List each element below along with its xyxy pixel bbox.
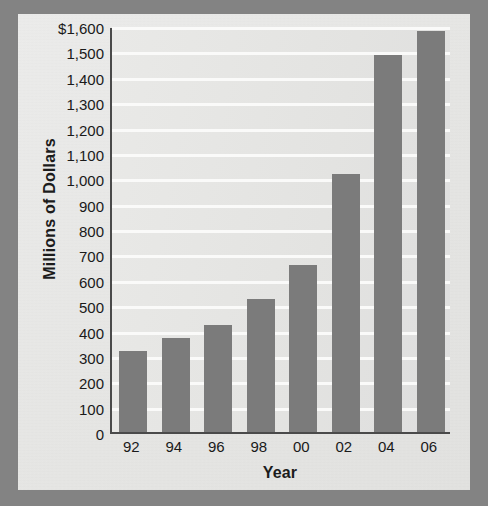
x-axis-tick-label: 98 (250, 438, 267, 455)
y-axis-tick-label: 1,400 (32, 70, 104, 87)
y-axis-tick-labels: 01002003004005006007008009001,0001,1001,… (32, 14, 104, 490)
bar (332, 174, 360, 432)
bar (374, 55, 402, 432)
y-axis-tick-label: 400 (32, 324, 104, 341)
y-axis-tick-label: 1,500 (32, 45, 104, 62)
x-axis-tick-label: 00 (293, 438, 310, 455)
y-axis-tick-label: 500 (32, 299, 104, 316)
x-axis-tick-label: 06 (420, 438, 437, 455)
y-axis-tick-label: 900 (32, 197, 104, 214)
y-axis-tick-label: 0 (32, 426, 104, 443)
plot-area (110, 28, 450, 434)
bar (417, 31, 445, 432)
y-axis-tick-label: 100 (32, 400, 104, 417)
y-axis-tick-label: $1,600 (32, 20, 104, 37)
bar (162, 338, 190, 432)
bar (289, 265, 317, 432)
x-axis-tick-label: 04 (378, 438, 395, 455)
x-axis-tick-labels: 9294969800020406 (110, 438, 450, 462)
chart-panel: Millions of Dollars 01002003004005006007… (18, 14, 470, 490)
y-axis-tick-label: 600 (32, 273, 104, 290)
bar (204, 325, 232, 432)
x-axis-tick-label: 96 (208, 438, 225, 455)
y-axis-tick-label: 700 (32, 248, 104, 265)
x-axis-title: Year (110, 464, 450, 482)
figure-frame: Millions of Dollars 01002003004005006007… (0, 0, 488, 506)
y-axis-tick-label: 1,000 (32, 172, 104, 189)
y-axis-tick-label: 1,100 (32, 146, 104, 163)
x-axis-tick-label: 02 (335, 438, 352, 455)
y-axis-tick-label: 300 (32, 349, 104, 366)
bar (119, 351, 147, 432)
x-axis-tick-label: 94 (165, 438, 182, 455)
y-axis-tick-label: 1,300 (32, 96, 104, 113)
y-axis-tick-label: 1,200 (32, 121, 104, 138)
y-axis-tick-label: 200 (32, 375, 104, 392)
y-axis-tick-label: 800 (32, 223, 104, 240)
bars-layer (112, 28, 450, 432)
bar (247, 299, 275, 432)
x-axis-tick-label: 92 (123, 438, 140, 455)
